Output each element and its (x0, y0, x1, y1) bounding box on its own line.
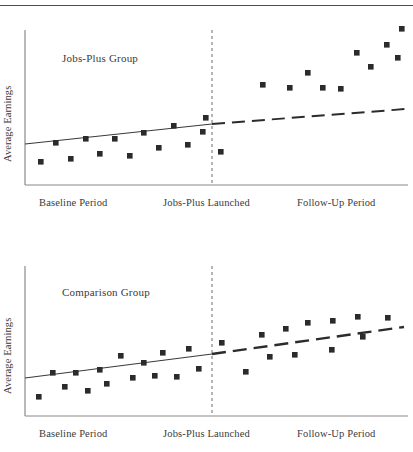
x-caption-baseline: Baseline Period (39, 197, 107, 208)
plot-area-comparison (0, 242, 413, 422)
group-annotation-jobs-plus: Jobs-Plus Group (62, 52, 138, 64)
clipped-header-text (0, 0, 413, 3)
x-caption-followup: Follow-Up Period (297, 428, 376, 439)
y-axis-label: Average Earnings (2, 146, 13, 162)
x-axis-captions: Baseline Period Jobs-Plus Launched Follo… (25, 197, 409, 213)
chart-panel-jobs-plus: Average Earnings Jobs-Plus Group Baselin… (0, 12, 413, 226)
x-caption-followup: Follow-Up Period (297, 197, 376, 208)
x-caption-launched: Jobs-Plus Launched (163, 428, 250, 439)
plot-area-jobs-plus (0, 12, 413, 192)
x-caption-baseline: Baseline Period (39, 428, 107, 439)
chart-panel-comparison: Average Earnings Comparison Group Baseli… (0, 242, 413, 452)
data-markers-followup (219, 314, 391, 375)
projected-trend-line (212, 109, 406, 124)
x-caption-launched: Jobs-Plus Launched (163, 197, 250, 208)
x-axis-captions: Baseline Period Jobs-Plus Launched Follo… (25, 428, 409, 444)
y-axis-label: Average Earnings (2, 378, 13, 394)
data-markers-baseline (36, 346, 202, 400)
group-annotation-comparison: Comparison Group (62, 286, 150, 298)
projected-trend-line (212, 327, 404, 354)
figure-page: Average Earnings Jobs-Plus Group Baselin… (0, 0, 413, 452)
data-markers-followup (203, 26, 405, 155)
data-markers-baseline (38, 123, 206, 165)
header-rule (0, 5, 413, 6)
